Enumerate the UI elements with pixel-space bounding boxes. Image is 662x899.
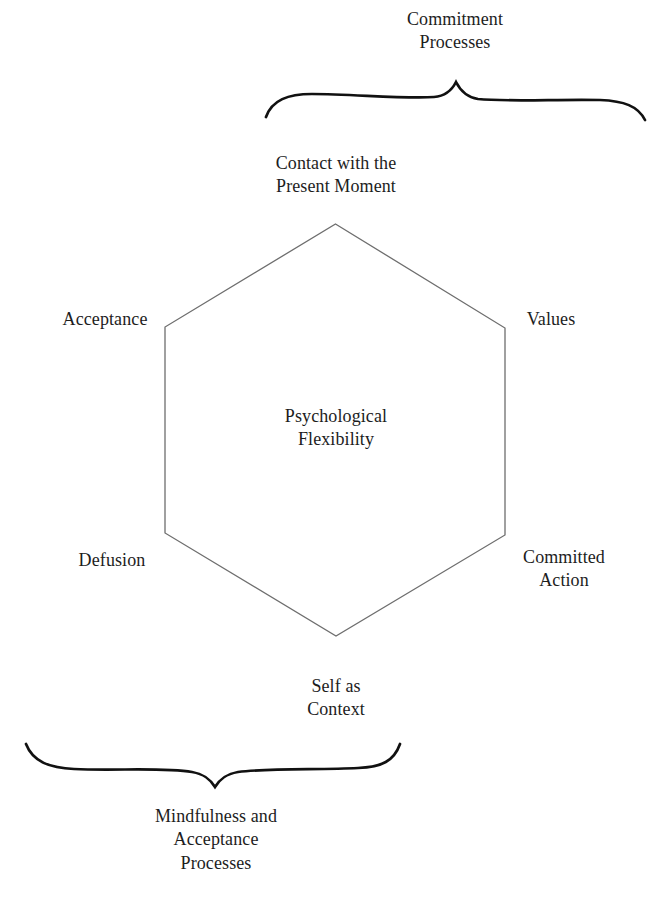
diagram-canvas: Commitment Processes Contact with the Pr… [0, 0, 662, 899]
commitment-processes-brace [266, 82, 645, 120]
vertex-label-contact-present-moment: Contact with the Present Moment [186, 152, 486, 199]
mindfulness-acceptance-brace [26, 744, 400, 787]
vertex-label-acceptance: Acceptance [10, 308, 200, 331]
vertex-label-values: Values [476, 308, 626, 331]
vertex-label-committed-action: Committed Action [469, 546, 659, 593]
group-label-commitment-processes: Commitment Processes [325, 8, 585, 55]
group-label-mindfulness-acceptance-processes: Mindfulness and Acceptance Processes [76, 805, 356, 875]
vertex-label-defusion: Defusion [22, 549, 202, 572]
vertex-label-self-as-context: Self as Context [226, 675, 446, 722]
hexagon-center-label: Psychological Flexibility [206, 405, 466, 452]
